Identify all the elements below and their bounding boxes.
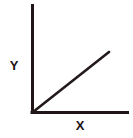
x-axis-label: X — [72, 119, 88, 132]
xy-axes-diagram: Y X — [0, 0, 133, 138]
y-axis-label: Y — [7, 59, 21, 72]
